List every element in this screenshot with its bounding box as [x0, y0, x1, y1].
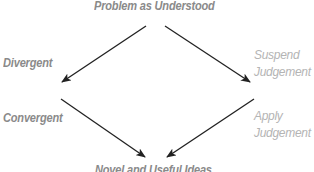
- arrows-layer: [0, 0, 314, 172]
- arrow-apply-to-ideas: [167, 99, 254, 157]
- arrow-convergent-to-ideas: [61, 99, 145, 157]
- arrow-top-to-divergent: [62, 26, 146, 82]
- arrow-top-to-suspend: [165, 26, 250, 82]
